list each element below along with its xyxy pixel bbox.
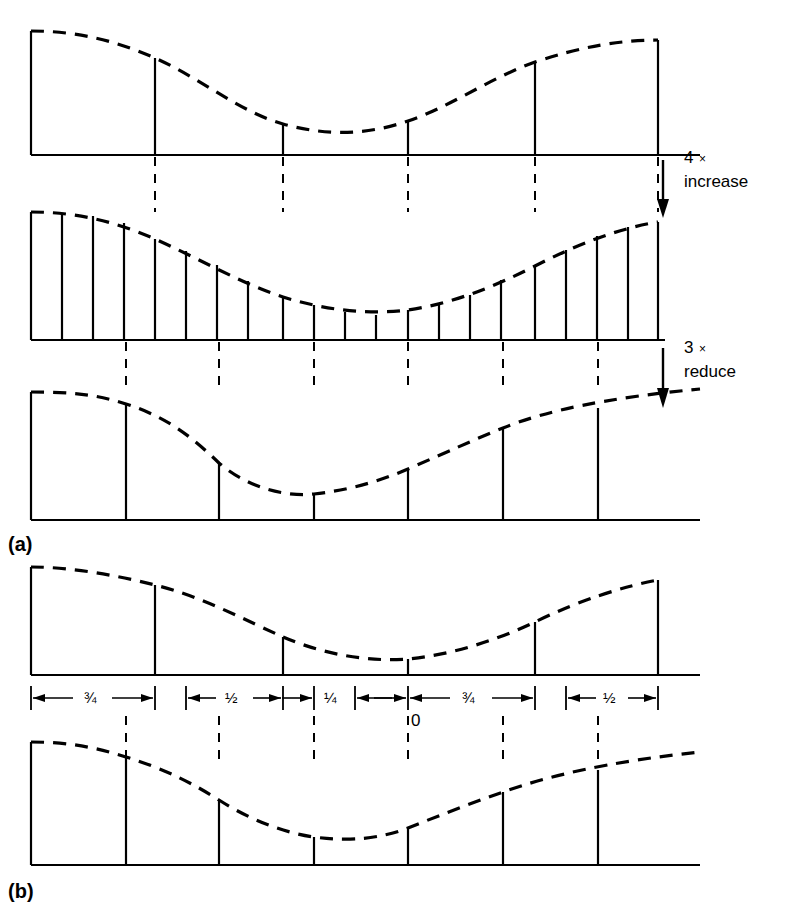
panel-b-graph-upper [31, 567, 700, 675]
operation-reduce-3x: 3 × reduce [657, 338, 736, 408]
arrow-right-icon [141, 694, 153, 702]
dimension-ruler: ¾ ½ ¼ [31, 686, 658, 760]
dimension-label: ¾ [84, 689, 97, 706]
dimension-label: ½ [225, 689, 238, 706]
sample-bar-group [31, 742, 598, 865]
panel-a-graph-4x-upsampled [31, 212, 665, 392]
panel-a-graph-original [31, 31, 700, 212]
dimension-label: ½ [603, 689, 616, 706]
sample-bar-group [31, 392, 598, 520]
operation-factor: 4 [684, 148, 693, 167]
alignment-guides [126, 716, 598, 760]
panel-label-b: (b) [8, 880, 34, 902]
envelope-curve [31, 567, 658, 660]
arrow-left-icon [568, 694, 580, 702]
arrow-right-icon [521, 694, 533, 702]
envelope-curve [31, 31, 658, 132]
operation-verb: increase [684, 172, 748, 191]
operation-factor: 3 [684, 338, 693, 357]
panel-b-graph-lower [31, 742, 700, 865]
arrow-right-icon [269, 694, 281, 702]
dimension-segment-origin: ¾ 0 [374, 686, 535, 730]
sample-rate-conversion-diagram: 4 × increase [0, 0, 809, 915]
arrow-left-icon [357, 694, 369, 702]
dimension-segment: ¾ [31, 686, 155, 710]
arrow-right-icon [394, 694, 406, 702]
dimension-label: ¾ [462, 689, 475, 706]
panel-a-graph-3x-decimated [31, 389, 700, 520]
origin-label: 0 [411, 711, 420, 730]
operation-increase-4x: 4 × increase [657, 148, 748, 218]
arrow-right-icon [644, 694, 656, 702]
sample-bar-group [31, 212, 658, 340]
operation-verb: reduce [684, 362, 736, 381]
arrow-right-icon [300, 694, 312, 702]
down-arrow-head-icon [657, 388, 669, 408]
figure-container: 4 × increase [0, 0, 809, 915]
sample-bar-group [31, 567, 658, 675]
dimension-segment: ½ [566, 686, 658, 710]
alignment-guides [126, 342, 598, 392]
arrow-left-icon [33, 694, 45, 702]
operation-mult-symbol: × [699, 342, 706, 356]
envelope-curve [31, 742, 700, 839]
envelope-curve [31, 389, 700, 495]
dimension-label: ¼ [324, 689, 337, 706]
dimension-segment: ½ [186, 686, 283, 710]
arrow-left-icon [410, 694, 422, 702]
operation-mult-symbol: × [699, 152, 706, 166]
alignment-guides [155, 157, 658, 212]
panel-label-a: (a) [8, 533, 32, 555]
arrow-left-icon [188, 694, 200, 702]
